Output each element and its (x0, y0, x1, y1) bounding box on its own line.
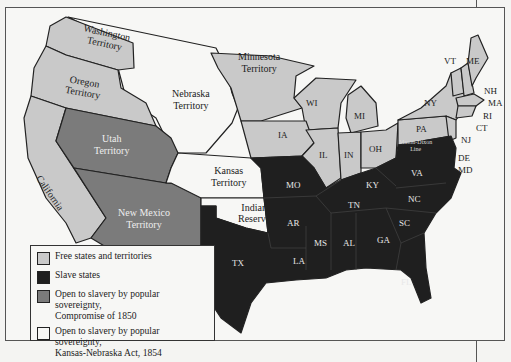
legend-label: Open to slavery by popular sovereignty,C… (55, 288, 208, 321)
label-ri: RI (483, 111, 492, 121)
label-mason-dixon: Mason-DixonLine (399, 139, 432, 153)
label-mo: MO (286, 180, 301, 190)
swatch-free (37, 252, 50, 265)
region-connecticut-ri (456, 106, 476, 118)
swatch-kansas-nebraska (37, 327, 50, 340)
label-vt: VT (444, 56, 456, 66)
label-fl: FL (401, 277, 412, 287)
label-ms: MS (314, 238, 327, 248)
label-il: IL (319, 150, 328, 160)
frame-tick-bottom (476, 341, 477, 362)
label-kansas: KansasTerritory (211, 165, 246, 189)
map-frame: WashingtonTerritory OregonTerritory Nebr… (5, 7, 505, 341)
label-nj: NJ (461, 135, 471, 145)
region-michigan (346, 86, 378, 133)
label-in: IN (344, 150, 354, 160)
label-mi: MI (354, 111, 365, 121)
label-oh: OH (369, 144, 382, 154)
map-legend: Free states and territories Slave states… (30, 245, 215, 341)
label-new-mexico: New MexicoTerritory (118, 207, 170, 231)
legend-label: Open to slavery by popular sovereignty,K… (55, 325, 208, 358)
label-ar: AR (287, 218, 300, 228)
legend-item-slave: Slave states (37, 269, 208, 284)
label-nh: NH (484, 86, 497, 96)
label-de: DE (458, 153, 470, 163)
label-minnesota: MinnesotaTerritory (238, 51, 280, 75)
label-md: MD (458, 165, 473, 175)
legend-label: Free states and territories (55, 250, 152, 261)
legend-item-kansas-nebraska: Open to slavery by popular sovereignty,K… (37, 325, 208, 358)
label-ga: GA (377, 235, 390, 245)
label-indian-reserve: IndianReserve (238, 202, 270, 224)
label-ct: CT (476, 123, 488, 133)
label-sc: SC (399, 218, 410, 228)
label-al: AL (343, 238, 355, 248)
label-nc: NC (408, 194, 421, 204)
legend-label: Slave states (55, 269, 100, 280)
legend-item-free: Free states and territories (37, 250, 208, 265)
label-ma: MA (488, 98, 503, 108)
label-ny: NY (424, 98, 437, 108)
label-tx: TX (232, 258, 244, 268)
label-va: VA (411, 168, 423, 178)
frame-tick-top (476, 0, 477, 7)
label-ia: IA (278, 130, 288, 140)
swatch-slave (37, 271, 50, 284)
label-ky: KY (366, 180, 379, 190)
label-me: ME (466, 56, 480, 66)
label-tn: TN (348, 200, 360, 210)
label-la: LA (293, 256, 305, 266)
label-wi: WI (306, 98, 318, 108)
legend-item-compromise-1850: Open to slavery by popular sovereignty,C… (37, 288, 208, 321)
label-utah: UtahTerritory (94, 133, 129, 157)
swatch-compromise-1850 (37, 290, 50, 303)
label-nebraska: NebraskaTerritory (172, 88, 210, 112)
label-pa: PA (416, 124, 427, 134)
